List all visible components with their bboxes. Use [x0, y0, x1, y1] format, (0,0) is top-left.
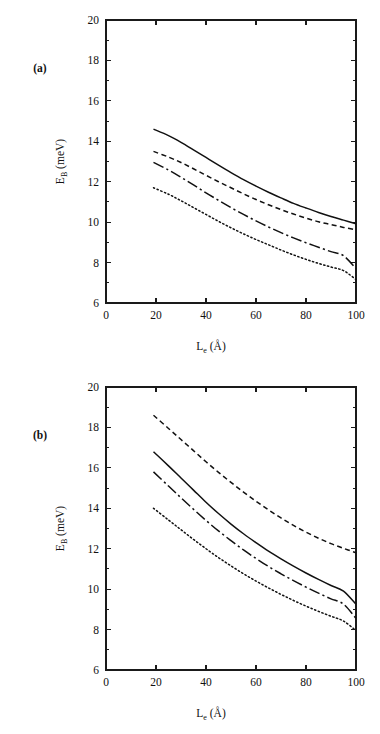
data-curve-dashdot: [154, 472, 357, 619]
x-tick-label: 60: [250, 676, 262, 688]
panel-label-a: (a): [33, 62, 47, 75]
y-tick-label: 18: [88, 54, 100, 66]
data-curve-dashed: [154, 151, 357, 229]
x-tick-label: 0: [103, 676, 109, 688]
y-tick-label: 8: [93, 257, 99, 269]
x-axis-title: Le (Å): [196, 339, 226, 355]
y-tick-label: 20: [88, 381, 100, 393]
y-tick-label: 8: [93, 624, 99, 636]
x-tick-label: 100: [347, 309, 365, 321]
x-tick-label: 100: [347, 676, 365, 688]
y-tick-label: 16: [88, 462, 100, 474]
axis-ticks: 02040608010068101214161820: [88, 381, 365, 688]
x-tick-label: 80: [300, 309, 312, 321]
y-tick-label: 14: [88, 502, 100, 514]
y-tick-label: 16: [88, 95, 100, 107]
axis-ticks: 02040608010068101214161820: [88, 14, 365, 321]
chart-svg-a: 02040608010068101214161820Le (Å)EB (meV)…: [0, 0, 380, 367]
x-tick-label: 40: [200, 309, 212, 321]
curves: [154, 129, 357, 279]
x-tick-label: 0: [103, 309, 109, 321]
x-tick-label: 20: [150, 676, 162, 688]
y-axis-title: EB (meV): [54, 506, 69, 551]
y-tick-label: 6: [93, 664, 99, 676]
axis-frame: [106, 387, 356, 670]
data-curve-dotted: [154, 508, 357, 630]
y-tick-label: 6: [93, 297, 99, 309]
x-tick-label: 60: [250, 309, 262, 321]
x-tick-label: 20: [150, 309, 162, 321]
svg-text:EB (meV): EB (meV): [54, 139, 69, 184]
chart-svg-b: 02040608010068101214161820Le (Å)EB (meV)…: [0, 367, 380, 734]
y-tick-label: 10: [88, 216, 100, 228]
y-tick-label: 14: [88, 135, 100, 147]
y-tick-label: 18: [88, 421, 100, 433]
figure-page: 02040608010068101214161820Le (Å)EB (meV)…: [0, 0, 380, 734]
x-tick-label: 40: [200, 676, 212, 688]
y-tick-label: 10: [88, 583, 100, 595]
data-curve-solid: [154, 129, 357, 224]
svg-text:EB (meV): EB (meV): [54, 506, 69, 551]
x-tick-label: 80: [300, 676, 312, 688]
y-axis-title: EB (meV): [54, 139, 69, 184]
y-tick-label: 20: [88, 14, 100, 26]
axis-frame: [106, 20, 356, 303]
y-tick-label: 12: [88, 176, 100, 188]
panel-label-b: (b): [33, 429, 47, 442]
x-axis-title: Le (Å): [196, 706, 226, 722]
chart-panel-a: 02040608010068101214161820Le (Å)EB (meV)…: [0, 0, 380, 367]
chart-panel-b: 02040608010068101214161820Le (Å)EB (meV)…: [0, 367, 380, 734]
curves: [154, 415, 357, 630]
data-curve-dotted: [154, 188, 357, 280]
y-tick-label: 12: [88, 543, 100, 555]
data-curve-solid: [154, 452, 357, 605]
